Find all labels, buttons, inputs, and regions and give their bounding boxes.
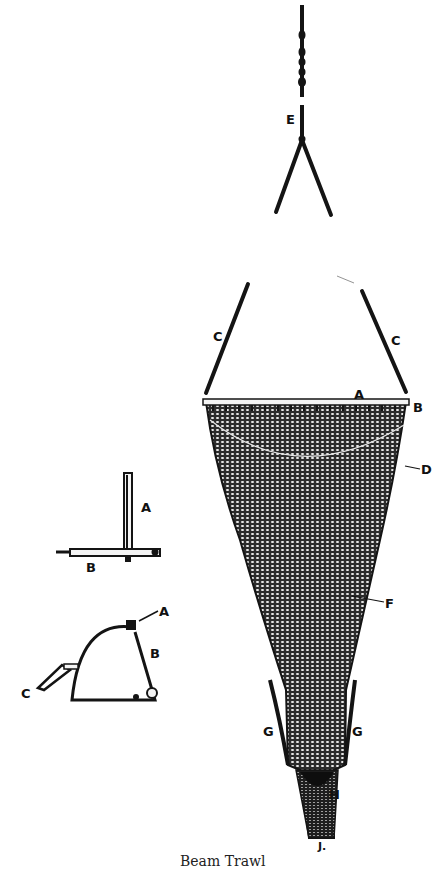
figure-caption: Beam Trawl: [180, 853, 266, 869]
label-detail2-a: A: [159, 604, 169, 619]
label-e: E: [286, 112, 295, 127]
detail-trawl-head: [38, 611, 158, 700]
label-detail1-a: A: [141, 500, 151, 515]
label-c-right: C: [391, 333, 401, 348]
label-h: H: [329, 787, 340, 802]
label-g-left: G: [263, 724, 274, 739]
label-detail2-c: C: [21, 686, 31, 701]
label-b-head: B: [413, 400, 423, 415]
label-a-beam: A: [354, 387, 364, 402]
label-c-left: C: [213, 329, 223, 344]
label-j: J.: [317, 840, 326, 853]
detail-beam-head: [56, 473, 160, 562]
label-detail2-b: B: [150, 646, 160, 661]
net-body: [206, 402, 406, 838]
label-detail1-b: B: [86, 560, 96, 575]
label-f: F: [385, 596, 394, 611]
label-d: D: [421, 462, 432, 477]
label-g-right: G: [352, 724, 363, 739]
beam-trawl-illustration: E C C A B D F: [0, 0, 444, 873]
bridles: [206, 284, 406, 393]
tow-rope: [276, 5, 331, 215]
